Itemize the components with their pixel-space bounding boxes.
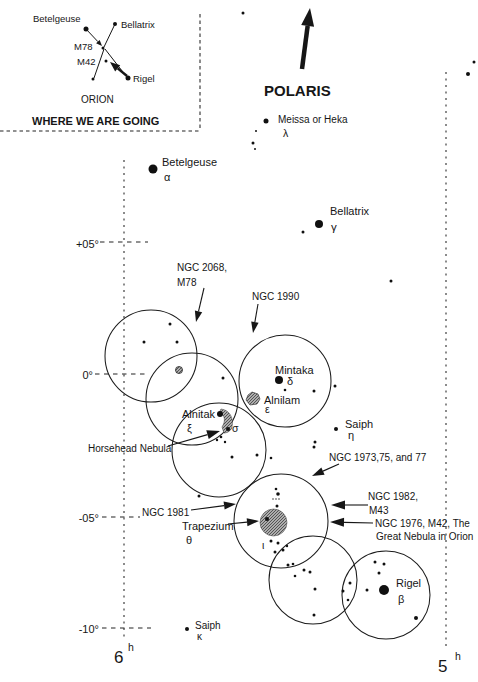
arrow-ngc2068-head (195, 310, 202, 322)
arrow-ngc1976-head (330, 518, 344, 527)
label-inset-orion: ORION (81, 94, 114, 105)
label-lambda: λ (283, 127, 289, 139)
star (276, 505, 279, 508)
star-inset-foot (92, 78, 95, 81)
label-theta: θ (186, 534, 192, 546)
label-dec-minus10: -10° (79, 623, 99, 635)
label-inset-m78: M78 (74, 41, 92, 52)
star (282, 549, 285, 552)
label-kappa: κ (197, 631, 203, 642)
star (287, 564, 290, 567)
star (270, 457, 273, 460)
orion-star-hop-chart: BetelgeuseBellatrixM78M42RigelORIONWHERE… (0, 0, 478, 682)
star (292, 563, 295, 566)
arrow-ngc1990-line (255, 304, 258, 322)
nebula-trapezium (260, 509, 287, 536)
star (252, 142, 255, 145)
label-betelgeuse: Betelgeuse (162, 156, 217, 168)
polaris-arrow-line (302, 26, 308, 69)
label-ngc1973: NGC 1973,75, and 77 (329, 452, 427, 463)
star (313, 446, 316, 449)
label-mintaka: Mintaka (275, 364, 314, 376)
label-beta: β (398, 593, 404, 605)
star (303, 569, 306, 572)
label-alpha: α (164, 171, 171, 183)
label-ngc1981: NGC 1981 (142, 507, 190, 518)
star (198, 495, 201, 498)
arrow-ngc1976-line (344, 522, 373, 523)
star (314, 441, 317, 444)
star-meissa (264, 119, 269, 124)
label-eta: η (348, 429, 354, 441)
star (275, 488, 278, 491)
star (302, 231, 305, 234)
star (224, 441, 226, 443)
label-bellatrix: Bellatrix (330, 205, 370, 217)
arrow-horsehead-head (206, 430, 220, 439)
star (414, 616, 418, 620)
label-gamma: γ (331, 221, 337, 233)
star (374, 561, 377, 564)
star (309, 571, 312, 574)
star-alnitak (217, 411, 223, 417)
label-horsehead: Horsehead Nebula (88, 443, 172, 454)
star (222, 377, 225, 380)
label-ra-6: 6 (114, 648, 123, 667)
label-ngc2068-line1: NGC 2068, (177, 262, 227, 273)
star-inset-belt (102, 47, 105, 50)
label-ngc1990: NGC 1990 (252, 291, 300, 302)
constellation-line (104, 24, 115, 47)
label-dec-zero: 0° (82, 369, 93, 381)
arrow-ngc1981-head (224, 502, 236, 510)
star (466, 72, 470, 76)
star (176, 341, 179, 344)
star-kappa-orionis (185, 627, 189, 631)
arrow-ngc1981-line (191, 506, 224, 510)
label-inset-caption: WHERE WE ARE GOING (32, 115, 159, 127)
label-ngc2068-line2: M78 (177, 277, 197, 288)
star (347, 599, 350, 602)
star (294, 575, 297, 578)
arrow-ngc2068-line (199, 288, 204, 311)
star (286, 545, 288, 547)
star (366, 589, 369, 592)
label-dec-plus05: +05° (76, 238, 99, 250)
label-ngc1982-line1: NGC 1982, (368, 491, 418, 502)
label-ngc1982-line2: M43 (369, 505, 389, 516)
star (231, 456, 234, 459)
star-inset-bellatrix (113, 22, 117, 26)
star (220, 436, 223, 439)
star-chart-page: BetelgeuseBellatrixM78M42RigelORIONWHERE… (0, 0, 478, 682)
star (272, 498, 273, 499)
label-meissa: Meissa or Heka (278, 114, 348, 125)
star-sigma-orionis (226, 427, 230, 431)
arrow-ngc1973-line (323, 464, 339, 471)
label-inset-m42: M42 (77, 56, 95, 67)
star (255, 130, 257, 132)
star (314, 588, 317, 591)
label-ra-5: 5 (438, 657, 447, 676)
label-sigma: σ (232, 422, 239, 434)
label-epsilon: ε (265, 403, 270, 415)
fov-m78 (105, 310, 197, 402)
label-polaris: POLARIS (264, 82, 331, 99)
star (276, 492, 280, 496)
label-saiph-kappa: Saiph (195, 620, 221, 631)
star-inset-m42 (105, 60, 108, 63)
label-ra-5-sup: h (455, 650, 461, 662)
star-betelgeuse (149, 165, 158, 174)
star (349, 582, 352, 585)
label-iota: ι (262, 539, 265, 551)
star (313, 390, 316, 393)
label-rigel: Rigel (396, 577, 421, 589)
arrow-ngc1990-head (251, 322, 258, 333)
label-xi: ξ (187, 422, 192, 434)
label-alnitak: Alnitak (182, 408, 216, 420)
inset-go-arrow-line (118, 68, 127, 76)
star-theta-trapezium (265, 517, 269, 521)
star (216, 439, 218, 441)
label-inset-bellatrix: Bellatrix (121, 19, 155, 30)
arrow-ngc1982-head (331, 501, 345, 510)
label-inset-betelgeuse: Betelgeuse (33, 13, 81, 24)
star (378, 572, 381, 575)
